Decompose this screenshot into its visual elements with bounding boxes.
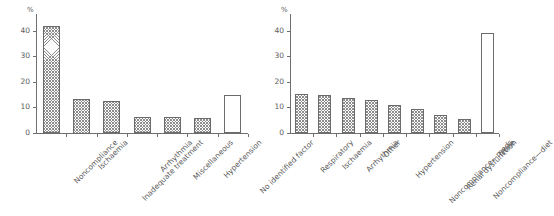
bar (194, 118, 211, 133)
y-axis-tick-label: 30 (12, 51, 30, 60)
chart-panel-right: %010203040RespiratoryIschaemiaArrhythmia… (254, 0, 507, 216)
x-axis-category-label: Noncompliance (72, 138, 119, 185)
x-axis-tick (218, 134, 219, 137)
y-axis-tick-label: 10 (266, 102, 284, 111)
y-axis-tick (33, 133, 36, 134)
x-axis-tick (360, 134, 361, 137)
bar (295, 94, 308, 133)
bar (365, 100, 378, 133)
y-axis-tick-label: 20 (266, 77, 284, 86)
chart-panel-left: %010203040NoncomplianceIschaemiaInadequa… (0, 0, 254, 216)
x-axis-tick (336, 134, 337, 137)
x-axis-tick (66, 134, 67, 137)
x-axis-tick (127, 134, 128, 137)
bar (224, 95, 241, 133)
bar (134, 117, 151, 133)
y-axis-tick (33, 82, 36, 83)
bar (164, 117, 181, 133)
x-axis-tick (97, 134, 98, 137)
x-axis-tick (313, 134, 314, 137)
y-axis-tick (287, 107, 290, 108)
y-axis-tick-label: 20 (12, 77, 30, 86)
y-axis-tick (287, 56, 290, 57)
x-axis-category-label: Hypertension (414, 138, 456, 180)
bar (43, 26, 60, 133)
bar (318, 95, 331, 133)
bar (411, 109, 424, 133)
y-axis-line (290, 14, 291, 133)
bar (481, 33, 494, 133)
x-axis-category-label: Other (381, 138, 402, 159)
y-axis-tick (287, 31, 290, 32)
bar (103, 101, 120, 133)
y-axis-tick (287, 133, 290, 134)
x-axis-line (36, 133, 248, 134)
bar (458, 119, 471, 133)
y-axis-tick (33, 31, 36, 32)
x-axis-tick (476, 134, 477, 137)
y-axis-unit-label: % (281, 6, 288, 14)
x-axis-tick (429, 134, 430, 137)
y-axis-unit-label: % (27, 6, 34, 14)
y-axis-tick (287, 82, 290, 83)
x-axis-line (290, 133, 499, 134)
y-axis-tick (33, 107, 36, 108)
y-axis-tick-label: 0 (12, 128, 30, 137)
bar (388, 105, 401, 133)
x-axis-tick (248, 134, 249, 137)
x-axis-tick (453, 134, 454, 137)
y-axis-tick-label: 10 (12, 102, 30, 111)
x-axis-tick (383, 134, 384, 137)
bar (434, 115, 447, 133)
x-axis-tick (187, 134, 188, 137)
y-axis-line (36, 14, 37, 133)
y-axis-tick-label: 40 (12, 26, 30, 35)
bar (342, 98, 355, 133)
y-axis-tick-label: 40 (266, 26, 284, 35)
y-axis-tick (33, 56, 36, 57)
x-axis-tick (499, 134, 500, 137)
y-axis-tick-label: 30 (266, 51, 284, 60)
y-axis-tick-label: 0 (266, 128, 284, 137)
bar (73, 99, 90, 134)
x-axis-tick (157, 134, 158, 137)
x-axis-tick (406, 134, 407, 137)
